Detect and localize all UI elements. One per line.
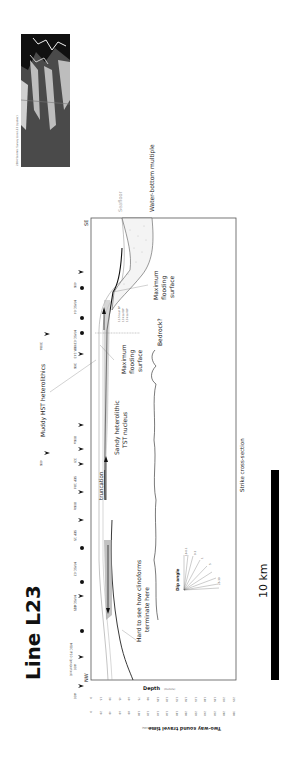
- core-marker: [80, 316, 84, 320]
- orientation-nw: NW: [83, 673, 89, 682]
- svg-text:SEP 15: SEP 15: [73, 530, 77, 541]
- tst-nucleus: [104, 300, 110, 470]
- svg-text:45: 45: [118, 697, 121, 701]
- svg-text:180: 180: [203, 697, 206, 702]
- svg-text:80Ka: 80Ka: [73, 436, 77, 444]
- twt-ticks: 0 20 40 60 80 100 120 140 160 180 200 22…: [89, 711, 235, 716]
- svg-text:260: 260: [213, 711, 216, 716]
- svg-text:300: 300: [232, 711, 235, 716]
- svg-text:0.3: 0.3: [194, 551, 197, 555]
- svg-text:40K: 40K: [39, 460, 43, 467]
- svg-text:30: 30: [108, 697, 111, 701]
- svg-text:TST nucleus: TST nucleus: [121, 412, 128, 449]
- svg-text:180: 180: [175, 711, 178, 716]
- water-bottom-multiple-label: Water-bottom multiple: [148, 144, 156, 212]
- svg-text:Dip angle: Dip angle: [175, 568, 180, 591]
- svg-text:225: 225: [232, 697, 235, 702]
- svg-text:15: 15: [99, 697, 102, 701]
- svg-text:0: 0: [89, 711, 92, 713]
- svg-text:80: 80: [127, 711, 130, 715]
- clinoform-reflector-lower: [111, 520, 133, 680]
- svg-text:Maximum: Maximum: [120, 344, 127, 374]
- svg-text:surface: surface: [168, 276, 175, 298]
- svg-text:240: 240: [203, 711, 206, 716]
- svg-text:flooding: flooding: [128, 350, 136, 374]
- svg-text:280: 280: [222, 711, 225, 716]
- svg-text:210: 210: [222, 697, 225, 702]
- depth-ticks: 0 15 30 45 60 75 90 105 120 135 150 165 …: [89, 697, 235, 702]
- svg-text:140: 140: [156, 711, 159, 716]
- mfs-right-label: Maximum flooding surface: [152, 270, 175, 300]
- strike-caption: Strike cross-section: [239, 438, 245, 492]
- svg-text:A05: A05: [73, 605, 77, 611]
- scale-bar-label: 10 km: [257, 563, 270, 598]
- twt-axis-unit: (milliseconds): [142, 726, 160, 729]
- svg-text:10-0.1: 10-0.1: [185, 547, 188, 556]
- scale-bar: [271, 470, 279, 680]
- svg-text:A00: A00: [73, 664, 77, 670]
- figure-title: Line L23: [21, 585, 45, 680]
- svg-text:Sandy heterolithic: Sandy heterolithic: [113, 400, 121, 455]
- svg-text:195: 195: [213, 697, 216, 702]
- muddy-hst-label: Muddy HST heterolithics: [39, 364, 47, 437]
- svg-text:200: 200: [184, 711, 187, 716]
- seafloor-label: Seafloor: [117, 190, 123, 212]
- svg-text:20: 20: [99, 711, 102, 715]
- seismic-inset: [21, 34, 70, 167]
- svg-text:Hard to see how clinoforms: Hard to see how clinoforms: [135, 560, 142, 642]
- svg-text:25-30: 25-30: [218, 577, 221, 585]
- depth-axis-unit: (meters): [164, 688, 175, 691]
- svg-text:40: 40: [108, 711, 111, 715]
- svg-text:90: 90: [146, 697, 149, 701]
- water-bottom-multiple-region: [112, 218, 153, 310]
- mfs-center-label: Maximum flooding surface: [120, 344, 143, 374]
- svg-text:160: 160: [165, 711, 168, 716]
- orientation-se: SE: [83, 220, 89, 226]
- svg-text:36K: 36K: [73, 363, 77, 370]
- svg-text:105: 105: [156, 697, 159, 702]
- bedrock-label: Bedrock?: [156, 318, 163, 346]
- svg-text:A00: A00: [73, 693, 77, 699]
- svg-text:165: 165: [194, 697, 197, 702]
- svg-text:flooding: flooding: [160, 276, 168, 300]
- svg-text:13 kcal BP: 13 kcal BP: [126, 308, 129, 322]
- svg-text:120: 120: [165, 697, 168, 702]
- inset-caption: 2004 Seismic Survey Line L23 (spaker): [16, 115, 19, 166]
- truncation-label: truncation: [98, 471, 104, 500]
- bedrock-surface: [152, 350, 159, 620]
- svg-text:11.5 kcal BP: 11.5 kcal BP: [118, 306, 121, 322]
- well-markers: [44, 270, 84, 688]
- line-l23-figure: 2004 Seismic Survey Line L23 (spaker) Se…: [0, 0, 288, 760]
- svg-text:MVSC-03: MVSC-03: [73, 330, 77, 344]
- svg-text:MVSC-04: MVSC-04: [73, 300, 77, 314]
- svg-text:220: 220: [194, 711, 197, 716]
- svg-text:120: 120: [146, 711, 149, 716]
- crossing-marker: [78, 270, 84, 274]
- svg-text:308A: 308A: [39, 342, 43, 351]
- svg-text:1: 1: [201, 557, 204, 559]
- svg-text:60: 60: [118, 711, 121, 715]
- svg-text:100: 100: [137, 711, 140, 716]
- svg-text:32I: 32I: [73, 458, 77, 463]
- svg-text:Maximum: Maximum: [152, 270, 159, 300]
- svg-text:80Kb: 80Kb: [73, 502, 77, 510]
- svg-text:135: 135: [175, 697, 178, 702]
- core-marker: [80, 286, 84, 290]
- svg-text:terminate here: terminate here: [143, 587, 150, 632]
- svg-text:75: 75: [137, 697, 140, 701]
- svg-text:0: 0: [89, 697, 92, 699]
- age-labels: 11.5 kcal BP 13 kcal BP 13 kcal BP: [118, 306, 129, 322]
- svg-text:13 kcal BP: 13 kcal BP: [122, 308, 125, 322]
- svg-text:SEP 18d: SEP 18d: [73, 476, 77, 489]
- svg-text:MOC P10 (projected): MOC P10 (projected): [69, 643, 73, 676]
- sandy-tst-label: Sandy heterolithic TST nucleus: [113, 400, 128, 455]
- depth-axis-label: Depth: [143, 685, 161, 692]
- svg-text:150: 150: [184, 697, 187, 702]
- svg-text:5: 5: [209, 563, 212, 565]
- core-marker: [80, 331, 84, 335]
- svg-text:MVSC-02: MVSC-02: [73, 562, 77, 576]
- svg-text:40K: 40K: [73, 282, 77, 289]
- svg-text:VIBR-143: VIBR-143: [73, 344, 77, 359]
- svg-text:60: 60: [127, 697, 130, 701]
- clinoforms-label: Hard to see how clinoforms terminate her…: [135, 560, 150, 642]
